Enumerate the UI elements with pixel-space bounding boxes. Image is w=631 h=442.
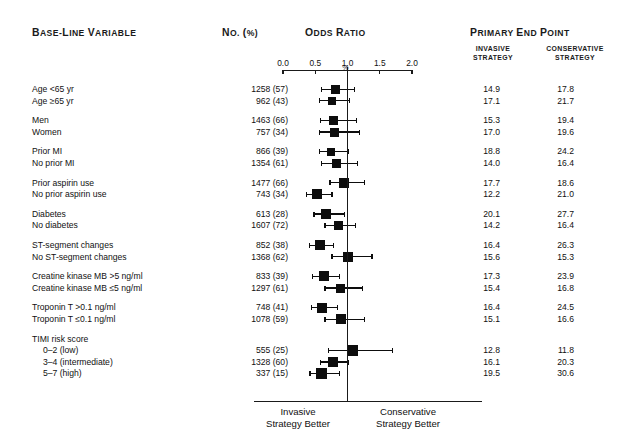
row-label: No prior aspirin use [32,189,107,199]
ci-cap-low [319,98,320,103]
axis-tick-1.5 [379,70,380,74]
axis-tick-0.0 [282,70,283,74]
header-primary-end-point: PRIMARY END POINT [470,27,570,38]
row-label: Creatine kinase MB ≤5 ng/ml [32,283,142,293]
row-label: Age ≥65 yr [32,96,74,106]
odds-ratio-marker [336,284,345,293]
header-baseline-variable: BASE-LINE VARIABLE [32,27,136,38]
ci-cap-low [309,371,310,376]
odds-ratio-marker [327,148,335,156]
row-no-pct: 1328 (60) [222,357,288,367]
row-label: 3–4 (intermediate) [32,357,113,367]
ci-cap-high [362,286,363,291]
conservative-strategy-value: 23.9 [548,271,574,281]
conservative-strategy-value: 16.8 [548,283,574,293]
row-no-pct: 852 (38) [222,240,288,250]
row-no-pct: 337 (15) [222,368,288,378]
odds-ratio-marker [315,240,325,250]
conservative-strategy-value: 18.6 [548,178,574,188]
odds-ratio-marker [312,189,322,199]
invasive-strategy-value: 19.5 [474,368,500,378]
conservative-strategy-value: 21.7 [548,96,574,106]
row-no-pct: 866 (39) [222,146,288,156]
conservative-strategy-value: 27.7 [548,209,574,219]
conservative-strategy-value: 21.0 [548,189,574,199]
conservative-strategy-value: 16.4 [548,220,574,230]
header-conservative-strategy: CONSERVATIVE STRATEGY [535,44,615,62]
header-no-pct-text: NO. (%) [222,28,258,38]
row-no-pct: 1368 (62) [222,252,288,262]
axis-tick-0.5 [315,70,316,74]
conservative-strategy-value: 15.3 [548,252,574,262]
row-no-pct: 1607 (72) [222,220,288,230]
row-no-pct: 1354 (61) [222,158,288,168]
row-no-pct: 1297 (61) [222,283,288,293]
conservative-strategy-value: 19.4 [548,115,574,125]
row-label: No diabetes [32,220,78,230]
ci-cap-high [364,180,365,185]
header-invasive-strategy-line2: STRATEGY [466,53,520,62]
invasive-strategy-value: 17.1 [474,96,500,106]
invasive-strategy-value: 12.8 [474,345,500,355]
ci-cap-low [329,180,330,185]
ci-cap-low [328,348,329,353]
row-no-pct: 962 (43) [222,96,288,106]
ci-cap-low [324,317,325,322]
ci-cap-high [337,305,338,310]
row-label: Prior aspirin use [32,178,94,188]
row-label: Troponin T >0.1 ng/ml [32,302,116,312]
footer-invasive-better-line2: Strategy Better [250,418,346,430]
ci-cap-high [331,192,332,197]
row-no-pct: 743 (34) [222,189,288,199]
odds-ratio-marker [332,159,341,168]
row-no-pct: 555 (25) [222,345,288,355]
odds-ratio-marker [321,209,331,219]
ci-cap-low [319,149,320,154]
axis-tick-label-2.0: 2.0 [400,58,424,68]
row-label: Diabetes [32,209,66,219]
conservative-strategy-value: 16.4 [548,158,574,168]
confidence-interval-line [328,350,393,351]
row-no-pct: 748 (41) [222,302,288,312]
header-no-pct: NO. (%) [222,27,258,38]
conservative-strategy-value: 17.8 [548,84,574,94]
ci-cap-low [331,254,332,259]
ci-cap-low [311,305,312,310]
invasive-strategy-value: 14.2 [474,220,500,230]
row-label: Age <65 yr [32,84,74,94]
invasive-strategy-value: 20.1 [474,209,500,219]
odds-ratio-marker [336,314,346,324]
row-no-pct: 757 (34) [222,127,288,137]
axis-tick-2.0 [411,70,412,74]
ci-cap-high [392,348,393,353]
ci-cap-low [312,274,313,279]
conservative-strategy-value: 16.6 [548,314,574,324]
ci-cap-low [324,223,325,228]
conservative-strategy-value: 26.3 [548,240,574,250]
ci-cap-low [306,192,307,197]
ci-cap-low [321,87,322,92]
odds-ratio-marker [334,221,343,230]
footer-axis-rule [254,401,482,402]
axis-tick-label-0.5: 0.5 [303,58,327,68]
ci-cap-high [364,317,365,322]
header-invasive-strategy: INVASIVE STRATEGY [466,44,520,62]
ci-cap-high [359,130,360,135]
row-label: Prior MI [32,146,62,156]
odds-ratio-marker [319,271,329,281]
header-primary-end-point-text: PRIMARY END POINT [470,28,570,38]
header-baseline-variable-text: BASE-LINE VARIABLE [32,28,136,38]
odds-ratio-marker [328,357,338,367]
invasive-strategy-value: 16.1 [474,357,500,367]
axis-tick-label-0.0: 0.0 [271,58,295,68]
odds-ratio-marker [328,97,336,105]
invasive-strategy-value: 18.8 [474,146,500,156]
odds-ratio-marker [331,85,340,94]
ci-cap-high [339,274,340,279]
ci-cap-low [320,360,321,365]
footer-conservative-better-line2: Strategy Better [348,418,468,430]
row-label: No prior MI [32,158,75,168]
header-conservative-strategy-line2: STRATEGY [535,53,615,62]
row-label: Men [32,115,49,125]
ci-cap-high [349,98,350,103]
